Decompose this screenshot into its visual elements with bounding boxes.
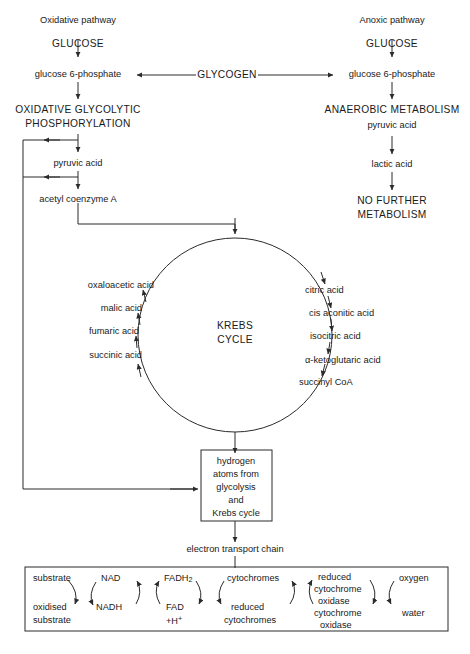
krebs-isocitric-acid: isocitric acid (310, 331, 361, 341)
no-further-metabolism-label: METABOLISM (357, 209, 426, 220)
etc-nad: NAD (101, 573, 120, 584)
etc-curve-redcyt-up (290, 581, 295, 604)
right-glucose6phosphate-label: glucose 6-phosphate (349, 69, 435, 79)
etc-fadh2-base: FADH (164, 573, 189, 583)
etc-fad-proton-base: +H (166, 616, 178, 626)
krebs-alpha-ketoglutaric-acid: α-ketoglutaric acid (305, 355, 381, 365)
acetyl-coenzyme-a-label: acetyl coenzyme A (39, 194, 117, 204)
krebs-arrow-circle-to-succinic (138, 364, 141, 377)
etc-cyt-ox-2: oxidase (320, 620, 352, 631)
acetyl-to-krebs-path (78, 203, 235, 230)
krebs-succinic-acid: succinic acid (89, 350, 142, 360)
etc-curve-cytochromes-down (219, 581, 224, 604)
electron-transport-chain-label: electron transport chain (186, 544, 283, 554)
krebs-arrow-ketoglutaric-to-succinyl (322, 364, 325, 376)
glycogen-label: GLYCOGEN (197, 69, 256, 80)
right-glucose-label: GLUCOSE (366, 38, 418, 49)
krebs-fumaric-acid: fumaric acid (89, 326, 139, 336)
hydrogen-box-line-5: Krebs cycle (199, 507, 273, 519)
krebs-title-line1: KREBS (217, 320, 253, 331)
etc-fadh2-subscript: 2 (189, 575, 193, 584)
etc-fad: FAD (166, 602, 184, 613)
etc-oxygen: oxygen (399, 573, 429, 584)
krebs-arrow-citric-to-cisaconitic (328, 296, 331, 308)
etc-reduced-cyt-ox-2: cytochrome (314, 584, 362, 595)
krebs-arrow-in-to-citric (321, 272, 325, 284)
krebs-cis-aconitic-acid: cis aconitic acid (309, 308, 374, 318)
krebs-arrow-fumaric-to-malic (138, 313, 140, 325)
respiration-diagram: Oxidative pathway GLUCOSE glucose 6-phos… (0, 0, 470, 654)
etc-oxidised: oxidised (33, 602, 67, 613)
left-pyruvic-acid-label: pyruvic acid (53, 158, 102, 168)
etc-curve-fad-up (156, 581, 160, 604)
krebs-arrow-malic-to-oxaloacetic (143, 290, 146, 302)
etc-fad-proton: +H+ (166, 615, 182, 627)
krebs-citric-acid: citric acid (305, 285, 344, 295)
left-pathway-heading: Oxidative pathway (40, 15, 116, 25)
etc-curve-fadh2-down (196, 581, 201, 604)
etc-cytochromes: cytochromes (227, 573, 279, 584)
lactic-acid-label: lactic acid (372, 159, 413, 169)
left-glucose6phosphate-label: glucose 6-phosphate (35, 69, 121, 79)
no-further-label: NO FURTHER (357, 195, 427, 206)
krebs-arrow-succinic-to-fumaric (136, 336, 137, 348)
right-pathway-heading: Anoxic pathway (359, 15, 424, 25)
etc-curve-cytox-up (309, 580, 313, 604)
krebs-succinyl-coa: succinyl CoA (299, 377, 353, 387)
krebs-title-line2: CYCLE (217, 334, 252, 345)
etc-reduced-cyt-ox-3: oxidase (318, 596, 350, 607)
krebs-malic-acid: malic acid (101, 303, 142, 313)
hydrogen-box-line-4: and (199, 494, 273, 506)
left-glucose-label: GLUCOSE (52, 38, 104, 49)
etc-cyt-ox-1: cytochrome (314, 608, 362, 619)
etc-curve-nadh-up (136, 581, 140, 604)
etc-oxidised-substrate: substrate (33, 615, 71, 626)
etc-nadh: NADH (96, 602, 122, 613)
krebs-arrow-isocitric-to-ketoglutaric (328, 342, 330, 354)
etc-fadh2: FADH2 (164, 573, 193, 585)
etc-reduced-cyt-ox-1: reduced (318, 572, 351, 583)
hydrogen-box-line-2: atoms from (199, 468, 273, 480)
hydrogen-box-line-3: glycolysis (199, 481, 273, 493)
right-pyruvic-acid-label: pyruvic acid (367, 120, 416, 130)
etc-water: water (402, 608, 424, 619)
etc-reduced-cytochromes: cytochromes (224, 615, 276, 626)
hydrogen-box-line-1: hydrogen (199, 455, 273, 467)
etc-curve-oxygen-to-water (389, 581, 394, 604)
phosphorylation-label: PHOSPHORYLATION (25, 118, 130, 129)
etc-reduced: reduced (231, 602, 264, 613)
etc-curve-redcytox-down (370, 580, 375, 604)
krebs-arrow-cisaconitic-to-isocitric (331, 319, 332, 331)
etc-substrate: substrate (33, 573, 71, 584)
oxidative-glycolytic-label: OXIDATIVE GLYCOLYTIC (15, 104, 140, 115)
krebs-oxaloacetic-acid: oxaloacetic acid (88, 280, 154, 290)
anaerobic-metabolism-label: ANAEROBIC METABOLISM (325, 104, 460, 115)
etc-fad-proton-superscript: + (178, 614, 182, 623)
